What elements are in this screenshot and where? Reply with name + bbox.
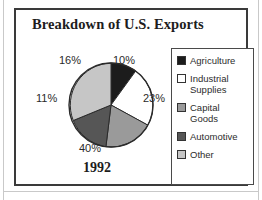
legend-swatch-agriculture-icon — [177, 56, 186, 65]
legend-swatch-capital-goods-icon — [177, 103, 186, 112]
legend-swatch-other-icon — [177, 150, 186, 159]
pie-label-agriculture: 10% — [113, 54, 135, 66]
pie-label-other: 16% — [59, 54, 81, 66]
legend-label-automotive: Automotive — [190, 131, 238, 142]
chart-title: Breakdown of U.S. Exports — [32, 16, 202, 33]
pie-chart — [68, 62, 154, 148]
legend-item-agriculture: Agriculture — [177, 55, 249, 66]
scan-edge-bottom — [3, 191, 259, 192]
legend-label-industrial-supplies: Industrial Supplies — [190, 73, 249, 95]
pie-label-automotive: 11% — [36, 92, 57, 104]
chart-frame: Breakdown of U.S. Exports 10% 16% 11% 23… — [14, 8, 248, 186]
chart-legend: Agriculture Industrial Supplies Capital … — [171, 48, 254, 185]
pie-svg — [68, 62, 154, 148]
legend-item-capital-goods: Capital Goods — [177, 102, 249, 124]
legend-item-other: Other — [177, 149, 249, 160]
pie-label-industrial-supplies: 23% — [143, 92, 165, 104]
chart-screenshot: Breakdown of U.S. Exports 10% 16% 11% 23… — [0, 0, 262, 200]
legend-label-agriculture: Agriculture — [190, 55, 235, 66]
legend-swatch-industrial-supplies-icon — [177, 74, 186, 83]
legend-item-industrial-supplies: Industrial Supplies — [177, 73, 249, 95]
legend-label-capital-goods: Capital Goods — [190, 102, 249, 124]
pie-label-capital-goods: 40% — [79, 142, 101, 154]
legend-label-other: Other — [190, 149, 214, 160]
chart-year-label: 1992 — [62, 160, 132, 176]
legend-item-automotive: Automotive — [177, 131, 249, 142]
legend-swatch-automotive-icon — [177, 132, 186, 141]
scan-edge-left — [3, 0, 4, 200]
scan-edge-right — [258, 0, 259, 200]
